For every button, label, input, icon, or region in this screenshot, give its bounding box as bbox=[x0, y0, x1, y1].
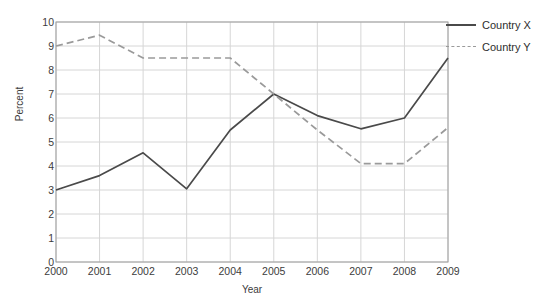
x-tick-label: 2000 bbox=[34, 265, 78, 277]
y-tick-label: 4 bbox=[32, 161, 54, 171]
series-line-country-x bbox=[56, 58, 448, 190]
legend-item-country-y[interactable]: Country Y bbox=[446, 36, 538, 58]
legend-item-country-x[interactable]: Country X bbox=[446, 14, 538, 36]
series-lines bbox=[56, 35, 448, 190]
legend-line-dashed-icon bbox=[446, 41, 476, 53]
y-tick-label: 3 bbox=[32, 185, 54, 195]
x-tick-label: 2004 bbox=[208, 265, 252, 277]
legend-label: Country Y bbox=[482, 41, 531, 53]
x-tick-label: 2003 bbox=[165, 265, 209, 277]
x-axis-title: Year bbox=[56, 284, 448, 295]
y-tick-label: 5 bbox=[32, 137, 54, 147]
gridlines bbox=[56, 22, 448, 262]
y-tick-label: 1 bbox=[32, 233, 54, 243]
x-tick-label: 2007 bbox=[339, 265, 383, 277]
y-tick-label: 2 bbox=[32, 209, 54, 219]
series-line-country-y bbox=[56, 35, 448, 163]
x-tick-label: 2008 bbox=[382, 265, 426, 277]
y-tick-label: 6 bbox=[32, 113, 54, 123]
x-tick-label: 2006 bbox=[295, 265, 339, 277]
y-axis-tick-labels: 109876543210 bbox=[30, 0, 54, 305]
legend-line-solid-icon bbox=[446, 19, 476, 31]
line-chart: 109876543210 200020012002200320042005200… bbox=[0, 0, 542, 305]
legend-label: Country X bbox=[482, 19, 531, 31]
x-tick-label: 2009 bbox=[426, 265, 470, 277]
x-tick-label: 2005 bbox=[252, 265, 296, 277]
y-tick-label: 9 bbox=[32, 41, 54, 51]
y-tick-label: 10 bbox=[32, 17, 54, 27]
x-tick-label: 2001 bbox=[78, 265, 122, 277]
x-tick-label: 2002 bbox=[121, 265, 165, 277]
chart-legend: Country X Country Y bbox=[446, 14, 538, 58]
y-axis-title: Percent bbox=[14, 74, 25, 134]
y-tick-label: 8 bbox=[32, 65, 54, 75]
y-tick-label: 7 bbox=[32, 89, 54, 99]
